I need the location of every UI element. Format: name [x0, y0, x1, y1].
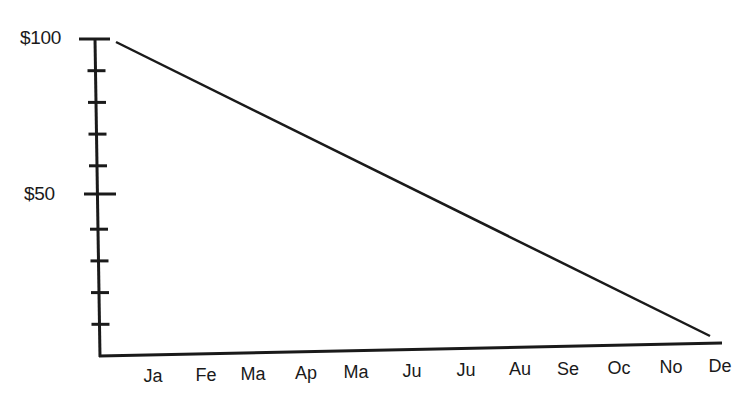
x-label: Ma [343, 362, 368, 383]
x-label: Ap [295, 363, 317, 384]
x-label: No [659, 357, 682, 378]
line-chart [0, 0, 746, 404]
x-label: Oc [607, 358, 630, 379]
x-label: Au [509, 359, 531, 380]
data-line [116, 42, 710, 336]
x-label: Se [557, 359, 579, 380]
x-axis [99, 343, 722, 356]
y-axis [95, 39, 100, 357]
x-label: Ju [402, 361, 421, 382]
x-label: Fe [195, 365, 216, 386]
x-label: Ma [240, 364, 265, 385]
x-label: Ju [456, 360, 475, 381]
x-label: Ja [143, 366, 162, 387]
y-label-50: $50 [24, 183, 55, 205]
y-label-100: $100 [20, 27, 61, 49]
x-label: De [708, 356, 731, 377]
